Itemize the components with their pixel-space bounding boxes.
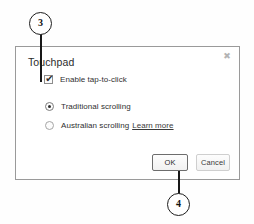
close-icon[interactable]: ✖ [222, 51, 232, 61]
ok-button[interactable]: OK [152, 154, 188, 171]
checkmark-icon: ✔ [45, 73, 54, 84]
radio-option-traditional-scrolling[interactable]: Traditional scrolling [45, 102, 131, 111]
enable-tap-to-click-row[interactable]: ✔ Enable tap-to-click [44, 75, 127, 84]
enable-tap-to-click-checkbox[interactable]: ✔ [44, 75, 53, 84]
learn-more-link[interactable]: Learn more [132, 121, 173, 130]
traditional-scrolling-radio[interactable] [45, 102, 54, 111]
touchpad-dialog: Touchpad ✖ ✔ Enable tap-to-click Traditi… [15, 46, 240, 180]
callout-badge-4: 4 [167, 193, 190, 216]
dialog-button-bar: OK Cancel [152, 154, 230, 171]
callout-leader-line-3 [40, 34, 42, 82]
callout-badge-3: 3 [29, 12, 52, 35]
page-title: Touchpad [28, 56, 74, 68]
traditional-scrolling-label: Traditional scrolling [61, 102, 131, 111]
australian-scrolling-label: Australian scrolling [61, 121, 129, 130]
australian-scrolling-radio[interactable] [45, 121, 54, 130]
screenshot-canvas: Touchpad ✖ ✔ Enable tap-to-click Traditi… [0, 0, 254, 224]
enable-tap-to-click-label: Enable tap-to-click [60, 75, 127, 84]
cancel-button[interactable]: Cancel [196, 154, 230, 171]
callout-leader-line-4 [178, 171, 180, 194]
radio-option-australian-scrolling[interactable]: Australian scrolling Learn more [45, 121, 174, 130]
